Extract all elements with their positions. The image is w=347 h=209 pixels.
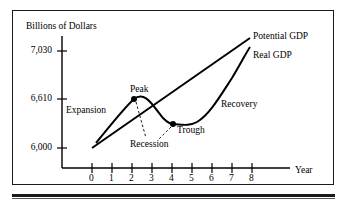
annotation-recovery: Recovery (221, 100, 257, 110)
series-label-real-gdp: Real GDP (253, 51, 292, 61)
bottom-rule-thin (12, 198, 335, 199)
peak-marker (131, 96, 137, 102)
x-tick-label-0: 0 (89, 174, 94, 184)
x-tick-label-7: 7 (229, 174, 234, 184)
x-tick-label-1: 1 (109, 174, 114, 184)
x-axis-title: Year (295, 166, 313, 176)
y-tick-label-7030: 7,030 (20, 46, 52, 56)
x-tick-label-6: 6 (209, 174, 214, 184)
y-axis-title: Billions of Dollars (26, 22, 97, 32)
x-tick-label-8: 8 (249, 174, 254, 184)
annotation-expansion: Expansion (66, 106, 106, 116)
y-tick-label-6000: 6,000 (20, 143, 52, 153)
bottom-rule-thick (12, 194, 335, 197)
trough-marker (170, 121, 176, 127)
x-tick-label-5: 5 (189, 174, 194, 184)
x-tick-label-2: 2 (129, 174, 134, 184)
figure-screenshot: Billions of Dollars Year 7,030 6,610 6,0… (0, 0, 347, 209)
recession-leader-to-peak (136, 102, 146, 138)
x-tick-label-4: 4 (169, 174, 174, 184)
annotation-peak: Peak (130, 85, 148, 95)
series-label-potential-gdp: Potential GDP (253, 32, 308, 42)
y-tick-label-6610: 6,610 (20, 94, 52, 104)
annotation-recession: Recession (130, 140, 169, 150)
recession-leader-to-trough (159, 127, 171, 139)
potential-gdp-line (92, 38, 250, 148)
annotation-trough: Trough (177, 126, 205, 136)
x-tick-label-3: 3 (149, 174, 154, 184)
